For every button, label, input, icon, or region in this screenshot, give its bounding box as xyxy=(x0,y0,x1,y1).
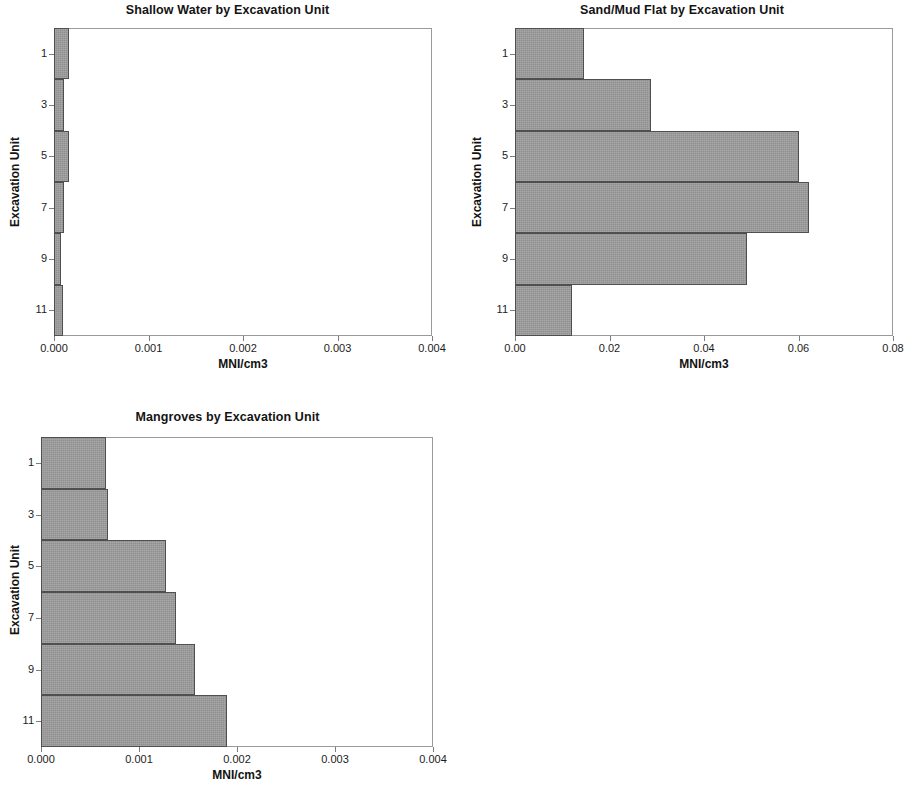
x-axis-tick-label: 0.002 xyxy=(229,342,257,354)
bars-layer xyxy=(41,437,433,747)
plot-area xyxy=(515,28,893,336)
bar xyxy=(41,489,108,541)
tick-mark xyxy=(36,515,41,516)
tick-mark xyxy=(510,105,515,106)
y-axis-tick-label: 1 xyxy=(41,47,47,59)
tick-mark xyxy=(510,156,515,157)
tick-mark xyxy=(510,310,515,311)
bar xyxy=(41,437,106,489)
tick-mark xyxy=(510,208,515,209)
tick-mark xyxy=(610,336,611,341)
x-axis-tick-label: 0.000 xyxy=(40,342,68,354)
chart-panel-sand-mud-flat: Sand/Mud Flat by Excavation Unit Excavat… xyxy=(455,0,909,394)
tick-mark xyxy=(510,259,515,260)
tick-mark xyxy=(510,54,515,55)
x-axis-tick-label: 0.04 xyxy=(693,342,714,354)
plot-area xyxy=(41,437,433,747)
bar xyxy=(515,182,809,233)
tick-mark xyxy=(54,336,55,341)
y-axis-tick-label: 5 xyxy=(502,149,508,161)
bar xyxy=(515,233,747,284)
tick-mark xyxy=(432,336,433,341)
chart-title: Sand/Mud Flat by Excavation Unit xyxy=(455,3,909,17)
y-axis-tick-label: 9 xyxy=(28,663,34,675)
x-axis-tick-label: 0.06 xyxy=(788,342,809,354)
bar xyxy=(515,79,651,130)
x-axis-title: MNI/cm3 xyxy=(54,357,432,371)
y-axis-tick-label: 11 xyxy=(497,303,508,315)
tick-mark xyxy=(36,463,41,464)
x-axis-tick-label: 0.003 xyxy=(321,753,349,765)
tick-mark xyxy=(515,336,516,341)
x-axis-tick-label: 0.002 xyxy=(223,753,251,765)
tick-mark xyxy=(49,156,54,157)
bar xyxy=(54,131,69,182)
chart-title: Mangroves by Excavation Unit xyxy=(0,410,455,424)
y-axis-tick-label: 7 xyxy=(41,201,47,213)
tick-mark xyxy=(36,566,41,567)
tick-mark xyxy=(36,670,41,671)
tick-mark xyxy=(49,208,54,209)
tick-mark xyxy=(893,336,894,341)
y-axis-tick-label: 3 xyxy=(41,98,47,110)
y-axis-ticks: 1357911 xyxy=(461,28,515,336)
bar xyxy=(41,540,166,592)
tick-mark xyxy=(49,310,54,311)
tick-mark xyxy=(237,747,238,752)
x-axis-title: MNI/cm3 xyxy=(41,768,433,782)
x-axis-tick-label: 0.02 xyxy=(599,342,620,354)
bar xyxy=(41,644,195,696)
tick-mark xyxy=(49,54,54,55)
chart-panel-shallow-water: Shallow Water by Excavation Unit Excavat… xyxy=(0,0,455,394)
chart-title: Shallow Water by Excavation Unit xyxy=(0,3,455,17)
y-axis-tick-label: 5 xyxy=(41,149,47,161)
x-axis-tick-label: 0.001 xyxy=(125,753,153,765)
tick-mark xyxy=(335,747,336,752)
tick-mark xyxy=(243,336,244,341)
tick-mark xyxy=(36,618,41,619)
bar xyxy=(54,182,64,233)
tick-mark xyxy=(799,336,800,341)
y-axis-tick-label: 9 xyxy=(41,252,47,264)
chart-panel-mangroves: Mangroves by Excavation Unit Excavation … xyxy=(0,405,455,789)
y-axis-tick-label: 7 xyxy=(502,201,508,213)
x-axis-tick-label: 0.004 xyxy=(419,753,447,765)
y-axis-tick-label: 11 xyxy=(36,303,47,315)
tick-mark xyxy=(41,747,42,752)
tick-mark xyxy=(433,747,434,752)
x-axis-tick-label: 0.00 xyxy=(504,342,525,354)
y-axis-ticks: 1357911 xyxy=(0,28,54,336)
y-axis-tick-label: 1 xyxy=(502,47,508,59)
x-axis-title: MNI/cm3 xyxy=(515,357,893,371)
bars-layer xyxy=(515,28,893,336)
y-axis-ticks: 1357911 xyxy=(0,437,41,747)
y-axis-tick-label: 11 xyxy=(23,714,34,726)
bar xyxy=(54,28,69,79)
bar xyxy=(54,79,64,130)
bars-layer xyxy=(54,28,432,336)
y-axis-tick-label: 5 xyxy=(28,559,34,571)
bar xyxy=(41,695,227,747)
y-axis-tick-label: 9 xyxy=(502,252,508,264)
bar xyxy=(41,592,176,644)
x-axis-tick-label: 0.08 xyxy=(882,342,903,354)
tick-mark xyxy=(49,259,54,260)
x-axis-tick-label: 0.003 xyxy=(324,342,352,354)
y-axis-tick-label: 1 xyxy=(28,456,34,468)
bar xyxy=(515,28,584,79)
bar xyxy=(54,285,63,336)
bar xyxy=(515,131,799,182)
x-axis-tick-label: 0.000 xyxy=(27,753,55,765)
tick-mark xyxy=(49,105,54,106)
bar xyxy=(54,233,61,284)
tick-mark xyxy=(139,747,140,752)
tick-mark xyxy=(338,336,339,341)
tick-mark xyxy=(36,721,41,722)
tick-mark xyxy=(704,336,705,341)
y-axis-tick-label: 3 xyxy=(502,98,508,110)
tick-mark xyxy=(149,336,150,341)
bar xyxy=(515,285,572,336)
plot-area xyxy=(54,28,432,336)
y-axis-tick-label: 7 xyxy=(28,611,34,623)
y-axis-tick-label: 3 xyxy=(28,508,34,520)
